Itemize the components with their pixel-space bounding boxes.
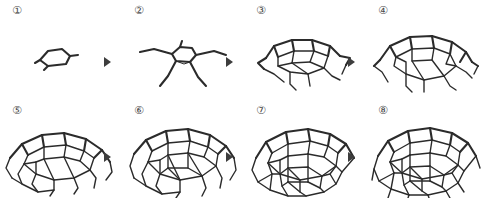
step-panel-2: ②: [122, 0, 244, 100]
step-diagram-8: [366, 124, 488, 198]
step-panel-8: ⑧: [366, 100, 488, 200]
step-panel-7: ⑦: [244, 100, 366, 200]
sequence-row-bottom: ⑤: [0, 100, 490, 200]
step-label-2: ②: [134, 5, 144, 16]
arrow-step-7-to-8: [348, 152, 355, 162]
step-label-7: ⑦: [256, 105, 266, 116]
step-panel-3: ③: [244, 0, 366, 100]
step-label-4: ④: [378, 5, 388, 16]
step-panel-6: ⑥: [122, 100, 244, 200]
step-label-8: ⑧: [378, 105, 388, 116]
arrow-step-2-to-3: [226, 57, 233, 67]
step-panel-4: ④: [366, 0, 488, 100]
arrow-step-3-to-4: [348, 57, 355, 67]
assembly-sequence-figure: ① ②: [0, 0, 490, 201]
step-label-6: ⑥: [134, 105, 144, 116]
step-diagram-4: [366, 24, 488, 98]
arrow-step-1-to-2: [104, 57, 111, 67]
sequence-row-top: ① ②: [0, 0, 490, 100]
arrow-step-5-to-6: [104, 152, 111, 162]
step-label-3: ③: [256, 5, 266, 16]
step-label-1: ①: [12, 5, 22, 16]
step-panel-5: ⑤: [0, 100, 122, 200]
arrow-step-6-to-7: [226, 152, 233, 162]
step-label-5: ⑤: [12, 105, 22, 116]
step-panel-1: ①: [0, 0, 122, 100]
